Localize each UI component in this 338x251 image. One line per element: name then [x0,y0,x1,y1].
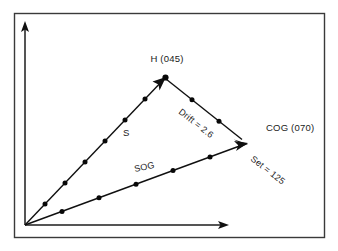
tick-dot [143,97,148,102]
tick-dot [97,195,102,200]
label-drift: Drift = 2.6 [177,107,216,140]
tick-dot [63,181,68,186]
tick-dot [123,118,128,123]
diagram-canvas: H (045) COG (070) Drift = 2.6 Set = 125 … [0,0,338,251]
tick-dot [217,119,222,124]
tick-dot [43,202,48,207]
tick-dot [60,209,65,214]
vertex-dot-heading [162,74,168,80]
tick-dot [134,182,139,187]
label-heading: H (045) [150,53,183,64]
tick-dot [190,97,195,102]
tick-dot [208,154,213,159]
tick-dot [103,139,108,144]
vector-triangle-diagram: H (045) COG (070) Drift = 2.6 Set = 125 … [0,0,338,251]
vertical-axis [21,21,29,225]
vector-sog [25,141,248,225]
tick-dot [83,160,88,165]
label-cog: COG (070) [266,122,314,133]
tick-dot [171,168,176,173]
label-speed: S [123,127,130,138]
horizontal-axis [25,221,229,229]
label-set: Set = 125 [249,154,287,187]
label-sog: SOG [133,160,155,174]
vector-s [25,77,166,225]
